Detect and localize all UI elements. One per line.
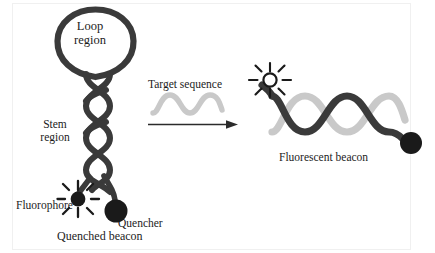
target-sequence-label: Target sequence <box>148 78 222 91</box>
transition-group <box>148 95 238 129</box>
fluorescent-beacon-group <box>249 63 422 154</box>
fluorescent-beacon-caption: Fluorescent beacon <box>279 151 368 164</box>
transition-arrow-head <box>226 120 238 128</box>
target-sequence-wave <box>153 95 222 113</box>
fluorophore-label: Fluorophore <box>16 199 73 212</box>
quencher-bead-right-icon <box>400 132 422 154</box>
quenched-beacon-caption: Quenched beacon <box>57 230 143 243</box>
loop-region-label: Loop region <box>63 19 117 47</box>
stem-region-label: Stem region <box>29 118 81 144</box>
quencher-label: Quencher <box>118 217 163 230</box>
figure-container: Loop region Stem region Fluorophore Quen… <box>0 0 435 253</box>
fluorophore-emitting-icon <box>249 63 291 97</box>
fluorophore-tail-strand <box>79 178 90 193</box>
